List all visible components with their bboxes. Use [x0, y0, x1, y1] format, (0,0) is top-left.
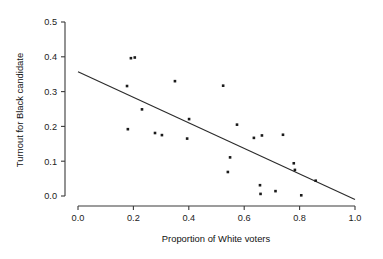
data-point — [259, 193, 262, 196]
y-axis-title: Turnout for Black candidate — [14, 53, 25, 167]
y-tick-label: 0.1 — [44, 157, 57, 167]
data-point — [222, 84, 225, 87]
y-tick-label: 0.5 — [44, 17, 57, 27]
data-point — [127, 128, 130, 131]
x-tick-label: 0.4 — [182, 213, 195, 223]
data-point — [133, 56, 136, 59]
x-tick-label: 0.2 — [127, 213, 140, 223]
data-point — [126, 85, 129, 88]
data-points — [126, 56, 317, 196]
data-point — [314, 179, 317, 182]
x-tick-label: 0.0 — [72, 213, 85, 223]
plot-canvas: 0.00.10.20.30.40.5 0.00.20.40.60.81.0 Pr… — [0, 0, 383, 259]
x-axis-title: Proportion of White voters — [162, 233, 271, 244]
y-tick-label: 0.2 — [44, 122, 57, 132]
regression-line-path — [78, 72, 355, 200]
x-tick-label: 0.8 — [293, 213, 306, 223]
data-point — [130, 57, 133, 60]
data-point — [161, 134, 164, 137]
x-tick-label: 0.6 — [238, 213, 251, 223]
data-point — [253, 137, 256, 140]
y-tick-label: 0.3 — [44, 87, 57, 97]
data-point — [259, 184, 262, 187]
x-axis: 0.00.20.40.60.81.0 — [72, 206, 362, 223]
data-point — [261, 134, 264, 137]
data-point — [141, 108, 144, 111]
data-point — [282, 133, 285, 136]
y-axis: 0.00.10.20.30.40.5 — [44, 17, 65, 201]
data-point — [294, 169, 297, 172]
y-tick-label: 0.4 — [44, 52, 57, 62]
data-point — [174, 80, 177, 83]
x-tick-label: 1.0 — [349, 213, 362, 223]
data-point — [188, 118, 191, 121]
data-point — [300, 194, 303, 197]
data-point — [292, 162, 295, 165]
data-point — [186, 137, 189, 140]
data-point — [274, 190, 277, 193]
data-point — [229, 156, 232, 159]
data-point — [227, 171, 230, 174]
y-tick-label: 0.0 — [44, 191, 57, 201]
regression-line — [78, 72, 355, 200]
data-point — [154, 132, 157, 135]
scatter-plot-figure: 0.00.10.20.30.40.5 0.00.20.40.60.81.0 Pr… — [0, 0, 383, 259]
data-point — [236, 123, 239, 126]
